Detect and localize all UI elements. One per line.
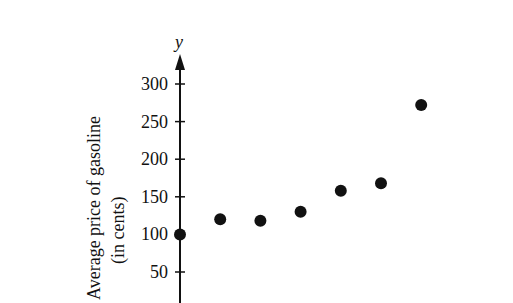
data-point xyxy=(174,228,186,240)
data-point xyxy=(295,206,307,218)
y-tick-label: 150 xyxy=(141,187,168,207)
data-points xyxy=(174,99,427,240)
y-tick-label: 100 xyxy=(141,224,168,244)
y-ticks: 50100150200250300 xyxy=(141,74,185,282)
y-axis-letter: y xyxy=(173,32,183,52)
y-tick-label: 50 xyxy=(150,262,168,282)
y-axis-label: Average price of gasoline (in cents) xyxy=(84,116,129,300)
data-point xyxy=(415,99,427,111)
y-axis-label-line-2: (in cents) xyxy=(108,197,129,264)
y-axis: y 50100150200250300 xyxy=(141,32,185,303)
y-axis-arrow-icon xyxy=(175,54,185,70)
data-point xyxy=(214,213,226,225)
data-point xyxy=(335,185,347,197)
y-tick-label: 250 xyxy=(141,112,168,132)
scatter-chart: Average price of gasoline (in cents) y 5… xyxy=(0,0,513,303)
y-tick-label: 300 xyxy=(141,74,168,94)
y-axis-label-line-1: Average price of gasoline xyxy=(84,116,104,300)
data-point xyxy=(375,177,387,189)
data-point xyxy=(254,215,266,227)
y-tick-label: 200 xyxy=(141,149,168,169)
